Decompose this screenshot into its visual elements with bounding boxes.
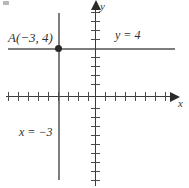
y-axis-tick [91, 66, 100, 67]
y-axis-tick [91, 162, 100, 163]
x-axis-tick [78, 92, 79, 101]
x-axis-tick [105, 92, 106, 101]
point-a-marker [55, 45, 62, 52]
vertical-line-label: x = −3 [19, 126, 53, 138]
y-axis-tick [91, 21, 100, 22]
x-axis-tick [165, 92, 166, 101]
y-axis-tick [91, 153, 100, 154]
y-axis [95, 8, 96, 186]
x-axis-tick [38, 92, 39, 101]
x-axis-tick [155, 92, 156, 101]
y-axis-tick [91, 126, 100, 127]
coordinate-plane-figure: A(−3, 4) y = 4 x = −3 x y [0, 0, 189, 188]
x-axis-tick [135, 92, 136, 101]
y-axis-label: y [100, 1, 105, 12]
y-axis-tick [91, 39, 100, 40]
x-axis-tick [48, 92, 49, 101]
y-axis-tick [91, 30, 100, 31]
y-axis-tick [91, 144, 100, 145]
x-axis-tick [145, 92, 146, 101]
y-axis-tick [91, 57, 100, 58]
y-axis-tick [91, 75, 100, 76]
y-axis-tick [91, 108, 100, 109]
y-axis-tick [91, 12, 100, 13]
y-axis-tick [91, 180, 100, 181]
y-axis-arrow-icon [91, 0, 101, 10]
y-axis-tick [91, 135, 100, 136]
point-a-label: A(−3, 4) [8, 31, 53, 44]
x-axis-tick [68, 92, 69, 101]
scan-artifact [3, 1, 9, 5]
x-axis-label: x [178, 98, 183, 109]
y-axis-tick [91, 84, 100, 85]
x-axis-tick [18, 92, 19, 101]
horizontal-line-y-equals-4 [8, 48, 175, 50]
y-axis-tick [91, 171, 100, 172]
x-axis-tick [88, 92, 89, 101]
x-axis-tick [58, 92, 59, 101]
x-axis-tick [115, 92, 116, 101]
horizontal-line-label: y = 4 [115, 29, 140, 41]
x-axis-tick [28, 92, 29, 101]
x-axis-tick [8, 92, 9, 101]
y-axis-tick [91, 117, 100, 118]
x-axis-tick [125, 92, 126, 101]
